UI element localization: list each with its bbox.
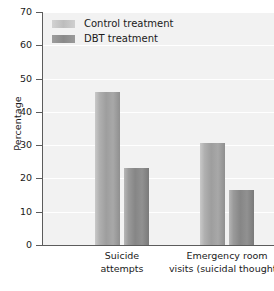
legend-label-dbt: DBT treatment — [84, 33, 158, 44]
y-axis-tick — [36, 12, 42, 13]
gridline — [42, 145, 274, 146]
y-axis-tick-label: 0 — [0, 239, 32, 250]
y-axis-tick — [36, 79, 42, 80]
y-axis-tick-label: 20 — [0, 172, 32, 183]
bar — [95, 92, 120, 245]
y-axis-tick-label: 30 — [0, 139, 32, 150]
y-axis-tick — [36, 145, 42, 146]
y-axis-tick-label: 70 — [0, 6, 32, 17]
y-axis-tick-label: 60 — [0, 39, 32, 50]
y-axis-tick — [36, 112, 42, 113]
bar-chart: Percentage 706050403020100 Control treat… — [0, 0, 274, 291]
y-axis-tick-label: 40 — [0, 106, 32, 117]
y-axis-line — [42, 12, 43, 246]
legend-label-control: Control treatment — [84, 18, 174, 29]
gridline — [42, 112, 274, 113]
y-axis-tick-label: 10 — [0, 206, 32, 217]
y-axis-tick — [36, 245, 42, 246]
x-axis-category-label: Emergency roomvisits (suicidal thoughts) — [147, 250, 274, 275]
x-axis-category-label-line: Emergency room — [147, 250, 274, 263]
bar — [200, 143, 225, 245]
y-axis-tick-label: 50 — [0, 73, 32, 84]
legend-item-dbt: DBT treatment — [52, 31, 174, 46]
bar — [229, 190, 254, 245]
legend-swatch-control-icon — [52, 20, 75, 28]
gridline — [42, 79, 274, 80]
gridline — [42, 178, 274, 179]
legend-swatch-dbt-icon — [52, 35, 75, 43]
y-axis-tick — [36, 178, 42, 179]
bar — [124, 168, 149, 245]
x-axis-category-label-line: visits (suicidal thoughts) — [147, 263, 274, 276]
y-axis-tick — [36, 45, 42, 46]
legend: Control treatment DBT treatment — [52, 16, 174, 46]
x-axis-line — [42, 245, 274, 246]
legend-item-control: Control treatment — [52, 16, 174, 31]
y-axis-title: Percentage — [12, 74, 23, 174]
gridline — [42, 12, 274, 13]
plot-area — [42, 12, 274, 245]
y-axis-tick — [36, 212, 42, 213]
